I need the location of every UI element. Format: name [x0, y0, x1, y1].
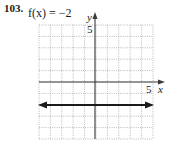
y-tick-label: 5 — [87, 23, 93, 35]
x-tick-label: 5 — [146, 83, 152, 95]
y-axis-label: y — [86, 11, 92, 23]
x-axis-label: x — [157, 83, 163, 95]
y-axis-arrow-icon — [93, 12, 98, 19]
coordinate-graph: 5 y 5 x — [0, 0, 173, 147]
